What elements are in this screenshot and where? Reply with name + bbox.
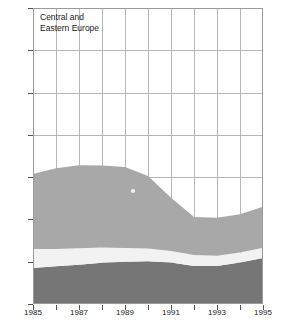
area-band-top-band	[33, 165, 263, 255]
x-axis-tick-label: 1989	[105, 309, 145, 317]
x-axis-tick	[56, 305, 57, 310]
data-marker-dot	[131, 189, 135, 193]
x-axis-tick-label: 1995	[243, 309, 283, 317]
x-axis-tick	[194, 305, 195, 310]
x-axis-tick-label: 1993	[197, 309, 237, 317]
series-layer	[33, 8, 263, 304]
x-axis-tick	[240, 305, 241, 310]
x-axis-tick-label: 1985	[13, 309, 53, 317]
area-chart: 02004006008001 0001 2001 400 19851987198…	[0, 0, 284, 329]
x-axis-tick-label: 1991	[151, 309, 191, 317]
x-axis-tick	[102, 305, 103, 310]
chart-title: Central and Eastern Europe	[40, 12, 99, 34]
x-axis-tick-label: 1987	[59, 309, 99, 317]
x-axis-tick	[148, 305, 149, 310]
